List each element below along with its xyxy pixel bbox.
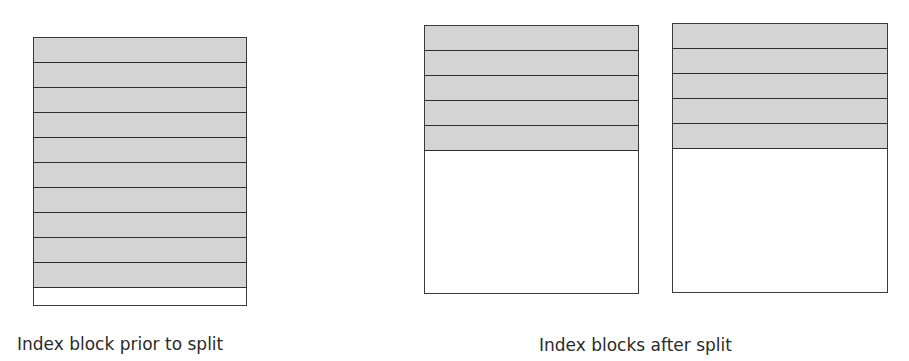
index-entries: [34, 38, 246, 288]
index-entries: [425, 26, 638, 151]
index-entry: [673, 124, 887, 149]
index-entry: [34, 38, 246, 63]
index-entry: [34, 213, 246, 238]
index-entry: [425, 51, 638, 76]
index-entry: [34, 88, 246, 113]
index-entry: [34, 263, 246, 288]
index-block-after-split-1: [424, 25, 639, 294]
index-entry: [34, 163, 246, 188]
index-entry: [673, 99, 887, 124]
index-entry: [673, 49, 887, 74]
index-entry: [34, 188, 246, 213]
index-entry: [34, 238, 246, 263]
index-entry: [34, 113, 246, 138]
index-entry: [34, 63, 246, 88]
index-block-before-split: [33, 37, 247, 306]
index-entry: [425, 101, 638, 126]
index-entry: [425, 126, 638, 151]
index-entry: [673, 74, 887, 99]
index-block-after-split-2: [672, 23, 888, 293]
index-entries: [673, 24, 887, 149]
index-entry: [673, 24, 887, 49]
index-entry: [425, 26, 638, 51]
caption-after-split: Index blocks after split: [539, 335, 732, 355]
index-entry: [34, 138, 246, 163]
caption-before-split: Index block prior to split: [17, 334, 223, 354]
index-entry: [425, 76, 638, 101]
